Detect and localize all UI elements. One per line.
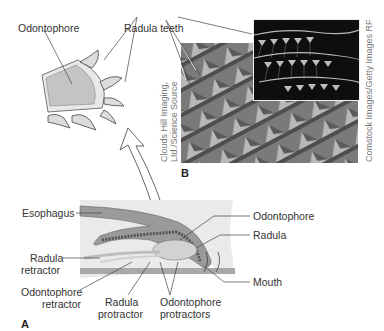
label-esophagus: Esophagus bbox=[22, 207, 75, 219]
label-odontophore-protractors-1: Odontophore bbox=[160, 296, 221, 308]
label-radula-protractor-1: Radula bbox=[105, 296, 138, 308]
credit-clouds-hill-line1: Clouds Hill Imaging, bbox=[159, 82, 169, 162]
label-radula-retractor-1: Radula bbox=[30, 252, 62, 264]
panel-letter-a: A bbox=[21, 318, 29, 330]
label-radula-protractor-2: protractor bbox=[98, 308, 143, 320]
credit-clouds-hill-line2: Ltd./Science Source bbox=[169, 81, 179, 162]
label-odontophore-retractor-2: retractor bbox=[42, 298, 81, 310]
label-odontophore: Odontophore bbox=[253, 210, 314, 222]
label-radula: Radula bbox=[253, 229, 286, 241]
diagram-drawing bbox=[0, 0, 384, 331]
label-radula-teeth: Radula teeth bbox=[124, 22, 184, 34]
label-odontophore-protractors-2: protractors bbox=[160, 308, 210, 320]
panel-letter-b: B bbox=[181, 167, 189, 179]
label-mouth: Mouth bbox=[253, 276, 282, 288]
label-odontophore-inset: Odontophore bbox=[18, 22, 79, 34]
credit-comstock: Comstock Images/Getty Images RF bbox=[364, 19, 374, 162]
snail-head-section bbox=[80, 200, 235, 278]
label-odontophore-retractor-1: Odontophore bbox=[21, 286, 82, 298]
label-radula-retractor-2: retractor bbox=[21, 264, 60, 276]
